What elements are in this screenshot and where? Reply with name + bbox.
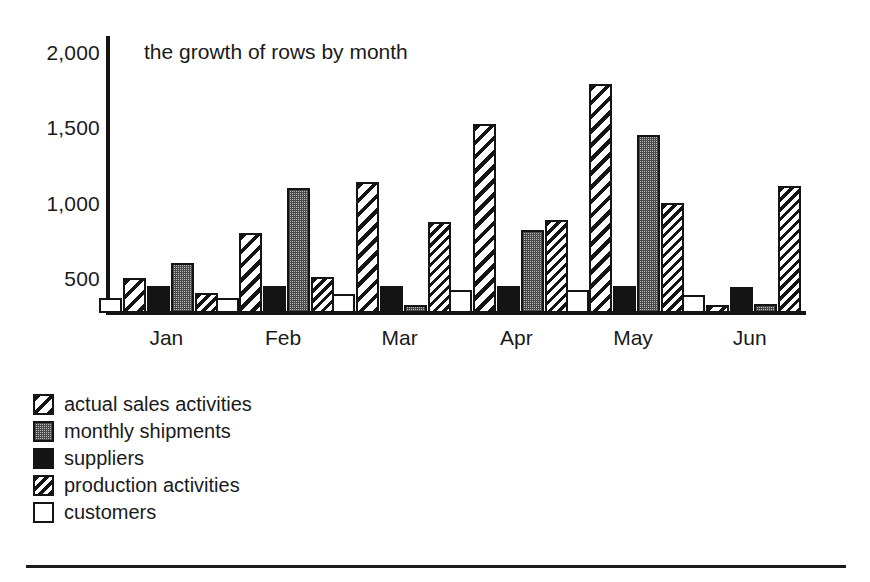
bar [545,220,568,313]
bar [216,298,239,313]
y-axis-tick-label: 500 [0,268,100,289]
bar-chart: 2,0001,5001,000500 the growth of rows by… [0,0,870,582]
bar [147,286,170,313]
legend-swatch-icon [33,448,54,469]
bar-group [341,36,458,313]
legend-item-label: suppliers [64,448,144,469]
bar-group [458,36,575,313]
bar [521,230,544,313]
bar-group [108,36,225,313]
bar [263,286,286,313]
legend-item-label: monthly shipments [64,421,231,442]
x-axis-tick-label: Feb [225,326,342,350]
bar [613,286,636,313]
bar [287,188,310,313]
bar [661,203,684,313]
legend-swatch-icon [33,502,54,523]
x-axis-tick-label: Mar [341,326,458,350]
bar [473,124,496,313]
y-axis-labels: 2,0001,5001,000500 [0,0,100,330]
bar [171,263,194,313]
legend-item-label: actual sales activities [64,394,252,415]
bar-group [575,36,692,313]
legend-item: actual sales activities [33,392,252,417]
legend-item-label: customers [64,502,156,523]
x-axis-tick-label: Jun [691,326,808,350]
legend-item-label: production activities [64,475,240,496]
bar [311,277,334,314]
bar [99,298,122,313]
bar [589,84,612,313]
y-axis-tick-label: 1,500 [0,117,100,138]
x-axis-tick-label: Jan [108,326,225,350]
y-axis-tick-label: 2,000 [0,42,100,63]
bar [332,294,355,313]
bar [706,305,729,313]
bar [404,305,427,313]
bar [449,290,472,313]
bar [123,278,146,313]
bottom-divider [26,565,846,568]
x-axis-labels: JanFebMarAprMayJun [108,326,808,360]
y-axis-tick-label: 1,000 [0,193,100,214]
bar [239,233,262,313]
bar [566,290,589,313]
legend-item: production activities [33,473,252,498]
bar-group [225,36,342,313]
bar [195,293,218,313]
bar [730,287,753,313]
bar [497,286,520,313]
bar [380,286,403,313]
legend-item: customers [33,500,252,525]
legend-item: monthly shipments [33,419,252,444]
bar [356,182,379,313]
plot-area [108,36,808,313]
x-axis-tick-label: Apr [458,326,575,350]
bar [682,295,705,313]
bar [428,222,451,314]
x-axis-tick-label: May [575,326,692,350]
legend-swatch-icon [33,421,54,442]
bar [637,135,660,313]
bar [778,186,801,313]
bar-group [691,36,808,313]
bar [754,304,777,313]
chart-legend: actual sales activitiesmonthly shipments… [33,392,252,527]
legend-swatch-icon [33,394,54,415]
legend-item: suppliers [33,446,252,471]
legend-swatch-icon [33,475,54,496]
